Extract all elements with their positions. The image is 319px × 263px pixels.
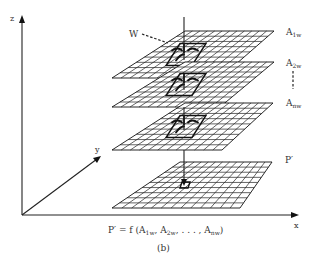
z-axis-label: z (10, 14, 14, 23)
x-axis-arrowhead-icon (291, 212, 299, 218)
window-annotation: W (129, 29, 168, 43)
layer-outline (112, 103, 273, 150)
x-axis-label: x (294, 221, 299, 230)
layer-labels: A1w A2w Anw P′ (285, 27, 302, 165)
z-axis-arrowhead-icon (19, 15, 25, 23)
layer-anw (112, 103, 273, 150)
layer-label-p-prime: P′ (285, 155, 293, 165)
y-axis-arrowhead-icon (93, 156, 101, 163)
y-axis-label: y (94, 145, 100, 154)
layer-p-prime (112, 162, 272, 208)
figure-caption: (b) (157, 243, 170, 253)
window-label: W (129, 29, 139, 39)
fusion-formula: P′ = f (A1w, A2w, . . . , Anw) (108, 225, 223, 236)
y-axis (22, 159, 97, 215)
layer-label-anw: Anw (285, 98, 302, 109)
layer-label-a1w: A1w (285, 27, 302, 38)
layer-stack-diagram: z y x W A1w A2w Anw P′ P′ = f (A1w, A2w,… (0, 0, 319, 263)
layer-stack (112, 31, 274, 208)
layer-label-a2w: A2w (285, 58, 302, 69)
window-leader-line (142, 34, 168, 43)
